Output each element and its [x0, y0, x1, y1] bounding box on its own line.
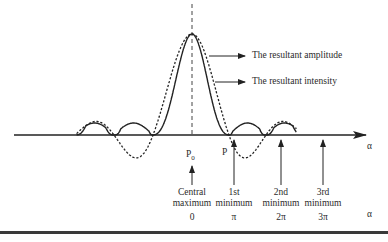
caption-value: 3π [305, 212, 342, 223]
caption-value: 2π [263, 212, 300, 223]
legend-intensity-label: The resultant intensity [252, 76, 337, 87]
bottom-alpha-label: α [367, 209, 372, 220]
caption-line2: minimum [216, 198, 253, 209]
second-minimum-caption: 2nd minimum 2π [263, 187, 300, 223]
caption-line1: 2nd [263, 187, 300, 198]
axis-alpha-label: α [367, 141, 372, 152]
point-p-label: P [222, 147, 227, 158]
caption-line2: maximum [173, 198, 212, 209]
caption-line1: 3rd [305, 187, 342, 198]
caption-line1: 1st [216, 187, 253, 198]
third-minimum-caption: 3rd minimum 3π [305, 187, 342, 223]
central-maximum-caption: Central maximum 0 [173, 187, 212, 223]
first-minimum-caption: 1st minimum π [216, 187, 253, 223]
bottom-rule [0, 231, 388, 234]
point-p0-label: P0 [186, 149, 195, 164]
p0-subscript: 0 [191, 154, 195, 162]
caption-value: π [216, 212, 253, 223]
caption-line1: Central [173, 187, 212, 198]
caption-value: 0 [173, 212, 212, 223]
caption-line2: minimum [305, 198, 342, 209]
caption-line2: minimum [263, 198, 300, 209]
legend-amplitude-label: The resultant amplitude [252, 50, 342, 61]
